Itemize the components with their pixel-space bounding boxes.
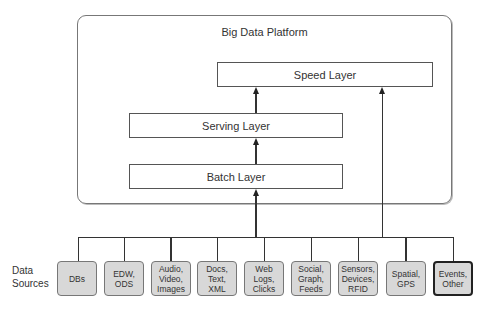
- source-drop-line: [170, 237, 172, 261]
- serving-layer: Serving Layer: [129, 113, 343, 138]
- source-drop-line: [453, 237, 455, 261]
- source-drop-line: [358, 237, 360, 261]
- source-sensors-devices-rfid: Sensors, Devices, RFID: [338, 261, 378, 296]
- arrowhead-icon: [379, 87, 385, 94]
- source-drop-line: [124, 237, 126, 261]
- source-docs-text-xml: Docs, Text, XML: [197, 261, 237, 296]
- source-events-other: Events, Other: [433, 261, 473, 296]
- source-drop-line: [217, 237, 219, 261]
- speed-layer: Speed Layer: [217, 62, 433, 87]
- sources-to-speed-connector: [382, 90, 384, 237]
- arrowhead-icon: [253, 138, 259, 145]
- source-web-logs-clicks: Web Logs, Clicks: [244, 261, 284, 296]
- source-drop-line: [405, 237, 407, 261]
- sources-to-batch-connector: [255, 192, 257, 237]
- batch-layer: Batch Layer: [129, 164, 343, 189]
- arrowhead-icon: [253, 87, 259, 94]
- source-audio-video-images: Audio, Video, Images: [151, 261, 191, 296]
- arrowhead-icon: [253, 189, 259, 196]
- source-spatial-gps: Spatial, GPS: [386, 261, 426, 296]
- source-bus-line: [78, 237, 454, 239]
- source-drop-line: [264, 237, 266, 261]
- source-edw-ods: EDW, ODS: [104, 261, 144, 296]
- source-dbs: DBs: [57, 261, 97, 296]
- source-drop-line: [311, 237, 313, 261]
- source-social-graph-feeds: Social, Graph, Feeds: [291, 261, 331, 296]
- source-drop-line: [78, 237, 80, 261]
- platform-title: Big Data Platform: [78, 26, 451, 38]
- data-sources-label: Data Sources: [12, 264, 49, 290]
